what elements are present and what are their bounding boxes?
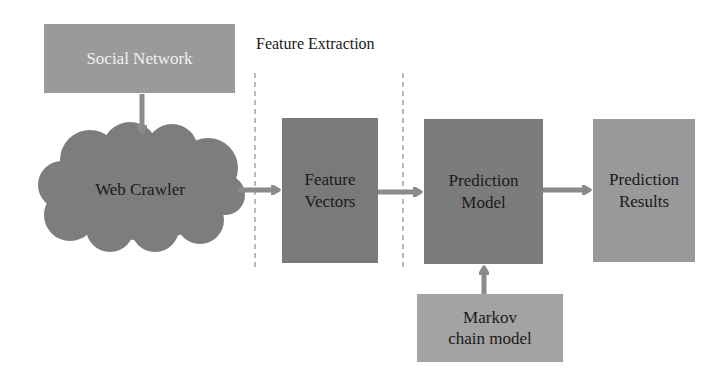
feature-extraction-label: Feature Extraction (256, 35, 375, 53)
prediction-model-line2: Model (449, 192, 519, 213)
prediction-results-line1: Prediction (609, 169, 679, 190)
social-network-label: Social Network (86, 48, 192, 69)
social-network-node: Social Network (44, 24, 235, 93)
prediction-results-node: Prediction Results (593, 119, 695, 262)
markov-line1: Markov (448, 307, 532, 328)
prediction-model-line1: Prediction (449, 170, 519, 191)
feature-vectors-line1: Feature (305, 169, 356, 190)
prediction-results-line2: Results (609, 191, 679, 212)
feature-vectors-line2: Vectors (305, 191, 356, 212)
prediction-model-node: Prediction Model (424, 119, 543, 264)
markov-chain-node: Markov chain model (417, 294, 563, 362)
markov-line2: chain model (448, 328, 532, 349)
feature-vectors-node: Feature Vectors (282, 118, 378, 263)
web-crawler-label: Web Crawler (70, 180, 210, 200)
